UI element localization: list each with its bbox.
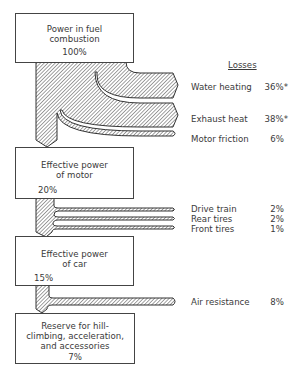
loss-label-drive-train: Drive train — [191, 204, 237, 214]
stage-box-fuel-combustion: Power in fuel combustion 100% — [15, 13, 134, 63]
loss-percent-drive-train: 2% — [244, 204, 284, 214]
loss-percent-motor-friction: 6% — [244, 134, 284, 144]
stage-percent: 100% — [16, 47, 133, 57]
stage-label: Power in fuel — [16, 24, 133, 34]
losses-header: Losses — [228, 60, 257, 70]
stage-percent: 7% — [16, 352, 134, 362]
loss-label-rear-tires: Rear tires — [191, 214, 232, 224]
loss-label-motor-friction: Motor friction — [191, 134, 249, 144]
stage-label: of car — [16, 259, 133, 269]
loss-label-air-resistance: Air resistance — [191, 297, 250, 307]
stage-percent: 15% — [16, 273, 133, 283]
loss-label-exhaust-heat: Exhaust heat — [191, 114, 248, 124]
loss-label-front-tires: Front tires — [191, 224, 234, 234]
stage-box-car-power: Effective power of car 15% — [15, 236, 134, 286]
loss-percent-exhaust-heat: 38%* — [248, 114, 288, 124]
loss-percent-water-heating: 36%* — [248, 82, 288, 92]
stage-label: and accessories — [16, 341, 134, 351]
stage-box-reserve: Reserve for hill- climbing, acceleration… — [15, 313, 135, 364]
stage-percent: 20% — [16, 185, 133, 195]
main-flow-fuel-to-motor — [36, 62, 178, 147]
loss-percent-air-resistance: 8% — [244, 297, 284, 307]
stage-box-motor-power: Effective power of motor 20% — [15, 147, 134, 199]
loss-percent-front-tires: 1% — [244, 224, 284, 234]
main-flow-motor-to-car — [36, 198, 175, 237]
loss-percent-rear-tires: 2% — [244, 214, 284, 224]
main-flow-car-to-reserve — [36, 285, 175, 313]
stage-label: Reserve for hill- — [16, 321, 134, 331]
stage-label: Effective power — [16, 160, 133, 170]
stage-label: Effective power — [16, 249, 133, 259]
stage-label: climbing, acceleration, — [16, 331, 134, 341]
loss-label-water-heating: Water heating — [191, 82, 252, 92]
stage-label: combustion — [16, 34, 133, 44]
stage-label: of motor — [16, 170, 133, 180]
